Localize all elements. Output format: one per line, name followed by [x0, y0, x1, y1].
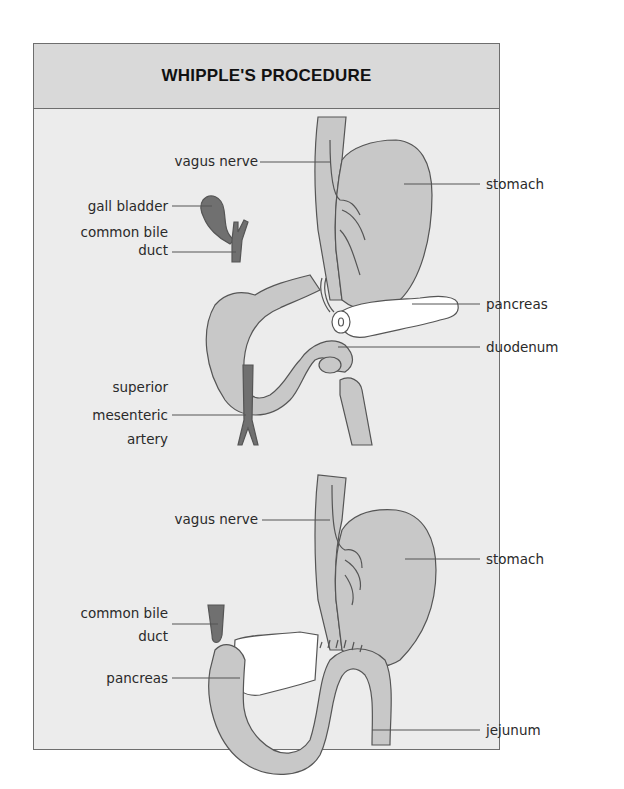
label-vagus-nerve-bottom: vagus nerve: [175, 511, 258, 528]
label-common-bile-top-2: duct: [138, 242, 168, 259]
label-common-bile-bottom-2: duct: [138, 628, 168, 645]
label-stomach-top: stomach: [486, 176, 544, 193]
gall-bladder: [201, 196, 234, 244]
common-bile-duct-top: [232, 220, 248, 262]
label-pancreas-top: pancreas: [486, 296, 548, 313]
label-jejunum: jejunum: [486, 722, 541, 739]
label-sma-1: superior: [112, 379, 168, 396]
anatomy-illustration: [0, 0, 624, 789]
label-sma-3: artery: [127, 431, 168, 448]
label-gall-bladder: gall bladder: [88, 198, 168, 215]
stomach-bottom: [335, 510, 436, 667]
label-common-bile-top-1: common bile: [81, 224, 168, 241]
label-common-bile-bottom-1: common bile: [81, 605, 168, 622]
label-sma-2: mesenteric: [92, 407, 168, 424]
stomach-top: [335, 140, 432, 310]
label-duodenum: duodenum: [486, 339, 559, 356]
label-vagus-nerve-top: vagus nerve: [175, 153, 258, 170]
pancreas-bottom: [233, 632, 318, 695]
label-stomach-bottom: stomach: [486, 551, 544, 568]
label-pancreas-bottom: pancreas: [106, 670, 168, 687]
